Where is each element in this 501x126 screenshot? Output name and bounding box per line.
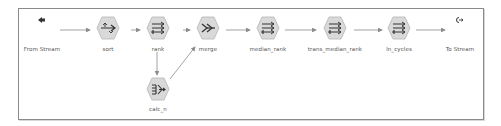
stream-in-icon (36, 16, 46, 24)
sort-node[interactable] (96, 16, 120, 40)
rank-node[interactable] (146, 16, 170, 40)
ln-cycles-node[interactable] (387, 16, 411, 40)
to-stream-label: To Stream (446, 46, 474, 52)
rank-label: rank (152, 46, 165, 52)
aggregate-icon (146, 77, 170, 101)
merge-label: merge (199, 46, 217, 52)
sort-label: sort (102, 46, 113, 52)
derive-icon (256, 16, 280, 40)
ln-cycles-label: ln_cycles (386, 46, 412, 52)
derive-icon (146, 16, 170, 40)
stream-out-icon (454, 16, 464, 24)
trans-median-rank-label: trans_median_rank (308, 46, 362, 52)
calc-n-label: calc_n (149, 106, 167, 112)
derive-icon (323, 16, 347, 40)
calc-n-node[interactable] (146, 77, 170, 101)
merge-node[interactable] (196, 16, 220, 40)
trans-median-rank-node[interactable] (323, 16, 347, 40)
from-stream-label: From Stream (24, 46, 60, 52)
median-rank-label: median_rank (250, 46, 287, 52)
connection-links (0, 0, 501, 126)
median-rank-node[interactable] (256, 16, 280, 40)
edge-calc-merge (170, 47, 195, 79)
sort-icon (96, 16, 120, 40)
from-stream-node[interactable] (36, 16, 46, 24)
derive-icon (387, 16, 411, 40)
merge-icon (196, 16, 220, 40)
to-stream-node[interactable] (454, 16, 464, 24)
